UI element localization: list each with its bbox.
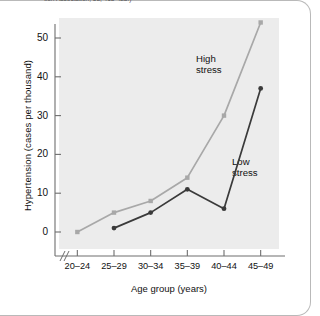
- x-axis-tick-label: 35–39: [175, 261, 201, 271]
- x-axis-tick-label: 40–44: [211, 261, 237, 271]
- data-point-low-stress: [148, 210, 153, 215]
- data-point-low-stress: [112, 226, 117, 231]
- x-axis-tick-label: 25–29: [101, 261, 127, 271]
- data-point-low-stress: [222, 206, 227, 211]
- data-point-high-stress: [185, 175, 189, 179]
- x-axis-tick-label: 30–34: [138, 261, 164, 271]
- series-line-low-stress: [114, 88, 261, 228]
- data-point-low-stress: [185, 187, 190, 192]
- data-point-high-stress: [148, 199, 152, 203]
- x-axis-tick-label: 45–49: [248, 261, 274, 271]
- data-point-high-stress: [258, 20, 262, 24]
- data-point-high-stress: [112, 210, 116, 214]
- series-group: [75, 20, 263, 234]
- data-point-high-stress: [222, 113, 226, 117]
- data-point-low-stress: [258, 86, 263, 91]
- x-axis-tick-label: 20–24: [65, 261, 91, 271]
- data-point-high-stress: [75, 230, 79, 234]
